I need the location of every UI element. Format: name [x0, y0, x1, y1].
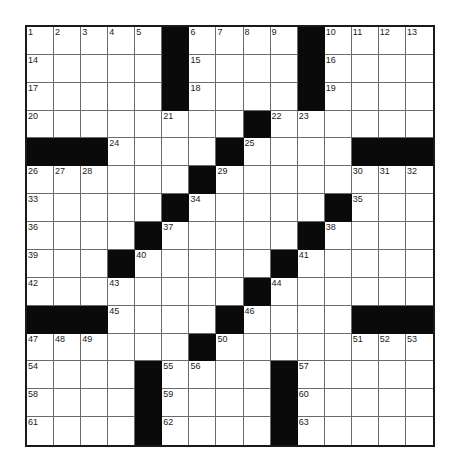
answer-cell[interactable] — [54, 278, 81, 306]
answer-cell[interactable] — [189, 389, 216, 417]
answer-cell[interactable] — [352, 361, 379, 389]
answer-cell[interactable] — [379, 361, 406, 389]
answer-cell[interactable] — [81, 83, 108, 111]
answer-cell[interactable]: 45 — [108, 306, 135, 334]
answer-cell[interactable] — [135, 138, 162, 166]
answer-cell[interactable] — [81, 417, 108, 445]
answer-cell[interactable] — [406, 250, 433, 278]
answer-cell[interactable]: 34 — [189, 194, 216, 222]
answer-cell[interactable] — [135, 278, 162, 306]
answer-cell[interactable] — [81, 278, 108, 306]
answer-cell[interactable] — [271, 55, 298, 83]
answer-cell[interactable]: 8 — [244, 27, 271, 55]
answer-cell[interactable] — [325, 111, 352, 139]
answer-cell[interactable] — [189, 250, 216, 278]
answer-cell[interactable] — [216, 111, 243, 139]
answer-cell[interactable] — [135, 111, 162, 139]
answer-cell[interactable] — [325, 278, 352, 306]
answer-cell[interactable] — [244, 166, 271, 194]
answer-cell[interactable] — [108, 222, 135, 250]
answer-cell[interactable] — [406, 389, 433, 417]
answer-cell[interactable]: 14 — [27, 55, 54, 83]
answer-cell[interactable] — [406, 55, 433, 83]
answer-cell[interactable] — [325, 361, 352, 389]
answer-cell[interactable]: 30 — [352, 166, 379, 194]
answer-cell[interactable] — [189, 278, 216, 306]
answer-cell[interactable]: 17 — [27, 83, 54, 111]
answer-cell[interactable] — [216, 83, 243, 111]
answer-cell[interactable] — [352, 222, 379, 250]
answer-cell[interactable] — [108, 334, 135, 362]
answer-cell[interactable] — [244, 55, 271, 83]
answer-cell[interactable]: 1 — [27, 27, 54, 55]
answer-cell[interactable] — [135, 166, 162, 194]
answer-cell[interactable]: 37 — [162, 222, 189, 250]
answer-cell[interactable] — [352, 278, 379, 306]
answer-cell[interactable]: 18 — [189, 83, 216, 111]
answer-cell[interactable] — [216, 55, 243, 83]
answer-cell[interactable] — [325, 166, 352, 194]
answer-cell[interactable] — [352, 250, 379, 278]
answer-cell[interactable]: 53 — [406, 334, 433, 362]
answer-cell[interactable] — [108, 111, 135, 139]
answer-cell[interactable] — [162, 306, 189, 334]
answer-cell[interactable]: 21 — [162, 111, 189, 139]
answer-cell[interactable] — [216, 361, 243, 389]
answer-cell[interactable] — [406, 417, 433, 445]
answer-cell[interactable]: 15 — [189, 55, 216, 83]
answer-cell[interactable] — [325, 389, 352, 417]
answer-cell[interactable] — [216, 417, 243, 445]
answer-cell[interactable] — [162, 250, 189, 278]
answer-cell[interactable]: 61 — [27, 417, 54, 445]
answer-cell[interactable] — [81, 194, 108, 222]
answer-cell[interactable] — [81, 250, 108, 278]
answer-cell[interactable]: 51 — [352, 334, 379, 362]
answer-cell[interactable] — [189, 306, 216, 334]
answer-cell[interactable]: 52 — [379, 334, 406, 362]
answer-cell[interactable] — [379, 278, 406, 306]
answer-cell[interactable] — [271, 334, 298, 362]
answer-cell[interactable] — [325, 138, 352, 166]
answer-cell[interactable] — [216, 194, 243, 222]
answer-cell[interactable] — [406, 361, 433, 389]
answer-cell[interactable]: 2 — [54, 27, 81, 55]
answer-cell[interactable]: 28 — [81, 166, 108, 194]
answer-cell[interactable]: 10 — [325, 27, 352, 55]
answer-cell[interactable] — [54, 417, 81, 445]
answer-cell[interactable] — [406, 222, 433, 250]
answer-cell[interactable]: 23 — [298, 111, 325, 139]
answer-cell[interactable] — [54, 111, 81, 139]
answer-cell[interactable] — [379, 222, 406, 250]
answer-cell[interactable]: 55 — [162, 361, 189, 389]
answer-cell[interactable]: 12 — [379, 27, 406, 55]
answer-cell[interactable] — [271, 222, 298, 250]
answer-cell[interactable]: 9 — [271, 27, 298, 55]
answer-cell[interactable] — [271, 306, 298, 334]
answer-cell[interactable] — [271, 138, 298, 166]
answer-cell[interactable]: 29 — [216, 166, 243, 194]
answer-cell[interactable] — [379, 194, 406, 222]
answer-cell[interactable]: 44 — [271, 278, 298, 306]
answer-cell[interactable] — [54, 194, 81, 222]
answer-cell[interactable] — [162, 166, 189, 194]
answer-cell[interactable] — [298, 138, 325, 166]
answer-cell[interactable] — [352, 83, 379, 111]
answer-cell[interactable]: 50 — [216, 334, 243, 362]
answer-cell[interactable] — [298, 194, 325, 222]
answer-cell[interactable] — [189, 138, 216, 166]
answer-cell[interactable] — [135, 194, 162, 222]
answer-cell[interactable]: 43 — [108, 278, 135, 306]
answer-cell[interactable] — [379, 250, 406, 278]
answer-cell[interactable] — [216, 389, 243, 417]
answer-cell[interactable]: 38 — [325, 222, 352, 250]
answer-cell[interactable] — [325, 334, 352, 362]
answer-cell[interactable] — [135, 306, 162, 334]
answer-cell[interactable] — [81, 222, 108, 250]
answer-cell[interactable] — [244, 389, 271, 417]
answer-cell[interactable] — [108, 389, 135, 417]
answer-cell[interactable] — [244, 83, 271, 111]
answer-cell[interactable]: 57 — [298, 361, 325, 389]
answer-cell[interactable]: 4 — [108, 27, 135, 55]
answer-cell[interactable] — [325, 250, 352, 278]
answer-cell[interactable] — [54, 250, 81, 278]
